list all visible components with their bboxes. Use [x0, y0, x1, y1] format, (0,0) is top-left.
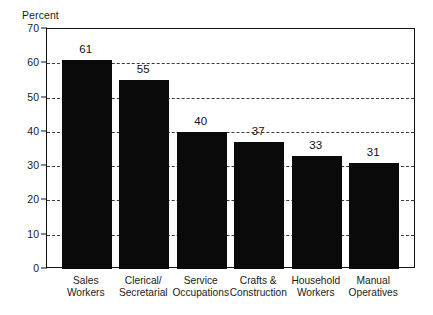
y-axis-tick-mark	[41, 268, 47, 269]
bar	[234, 142, 284, 269]
y-axis-tick-mark	[41, 130, 47, 131]
y-axis-tick-mark	[41, 233, 47, 234]
y-axis-tick-label: 50	[13, 91, 39, 103]
y-axis-tick-label: 30	[13, 159, 39, 171]
bar-value-label: 37	[218, 125, 298, 137]
y-axis-tick-label: 20	[13, 193, 39, 205]
y-axis-tick-label: 10	[13, 228, 39, 240]
bar	[119, 80, 169, 269]
y-axis-tick-mark	[41, 28, 47, 29]
x-axis-category-label-line: Manual	[328, 275, 418, 287]
y-axis-tick-label: 40	[13, 125, 39, 137]
y-axis-title: Percent	[22, 9, 59, 21]
bar	[349, 163, 399, 269]
bar	[292, 156, 342, 269]
bar	[177, 132, 227, 269]
bar-value-label: 61	[46, 43, 126, 55]
y-axis-tick-label: 0	[13, 262, 39, 274]
chart-figure: Percent 01020304050607061SalesWorkers55C…	[0, 0, 433, 315]
x-axis-category-label: ManualOperatives	[328, 275, 418, 300]
y-axis-tick-mark	[41, 96, 47, 97]
bar-value-label: 55	[103, 63, 183, 75]
y-axis-tick-mark	[41, 62, 47, 63]
bar-value-label: 31	[333, 146, 413, 158]
y-axis-tick-mark	[41, 165, 47, 166]
x-axis-category-label-line: Operatives	[328, 287, 418, 299]
bar	[62, 60, 112, 269]
y-axis-tick-mark	[41, 199, 47, 200]
y-axis-tick-label: 60	[13, 56, 39, 68]
y-axis-tick-label: 70	[13, 22, 39, 34]
